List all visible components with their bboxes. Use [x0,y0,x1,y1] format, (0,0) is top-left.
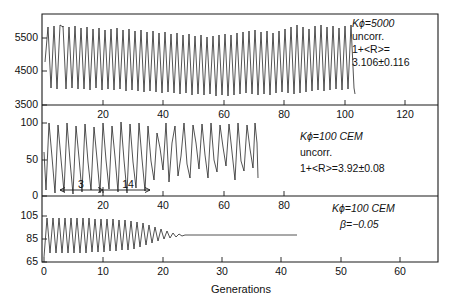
annot-mid-line-1: uncorr. [300,146,332,158]
panel-top-annotation: Kϕ=5000 uncorr. 1+<R>= 3.106±0.116 [352,17,410,68]
xtick-bot-2: 20 [157,265,169,277]
ytick-mid-1: 50 [26,153,38,165]
ytick-bot-2: 65 [26,255,38,267]
trace-bottom [44,218,297,257]
panel-middle-annotation: Kϕ=100 CEM uncorr. 1+<R>=3.92±0.08 [300,130,385,174]
panel-bottom: 20 40 60 80 105 85 65 [20,191,406,277]
panel-bottom-annotation: Kϕ=100 CEM β=−0.05 [332,202,395,230]
annot-top-line-0: Kϕ=5000 [352,17,394,29]
ytick-top-1: 4500 [15,64,39,76]
panel-bottom-xticks: 0 10 20 30 40 50 60 [41,257,406,277]
annot-bot-line-1: β=−0.05 [339,218,379,230]
ytick-top-2: 3500 [15,98,39,110]
span-label-14: 14 [122,178,134,190]
xtick-bot-6: 60 [394,265,406,277]
figure-container: 5500 4500 3500 Kϕ=5000 uncorr. 1+<R>= 3.… [0,0,451,303]
xtick-mid-1: 40 [157,199,169,211]
panel-bottom-yticks: 105 85 65 [20,209,47,267]
annot-top-line-3: 3.106±0.116 [352,56,410,68]
xtick-top-2: 60 [218,108,230,120]
panel-middle-xticks: 20 40 60 80 [97,191,290,211]
xtick-bot-0: 0 [41,265,47,277]
xtick-bot-3: 30 [216,265,228,277]
xtick-bot-4: 40 [275,265,287,277]
xtick-bot-5: 50 [335,265,347,277]
trace-middle [44,122,258,194]
panel-top-xticks: 20 40 60 80 100 120 [97,100,414,120]
ytick-mid-2: 0 [32,189,38,201]
annot-mid-line-2: 1+<R>=3.92±0.08 [300,162,385,174]
three-panel-oscillation-figure: 5500 4500 3500 Kϕ=5000 uncorr. 1+<R>= 3.… [0,0,451,303]
ytick-top-0: 5500 [15,31,39,43]
annot-top-line-1: uncorr. [352,30,384,42]
xtick-top-0: 20 [97,108,109,120]
span-arrow-14: 14 [103,178,150,193]
ytick-bot-1: 85 [26,232,38,244]
panel-middle-yticks: 100 50 0 [20,116,47,201]
annot-top-line-2: 1+<R>= [352,43,390,55]
xtick-top-3: 80 [278,108,290,120]
span-arrow-3: 3 [60,178,103,193]
xtick-mid-0: 20 [97,199,109,211]
xtick-mid-3: 80 [278,199,290,211]
xtick-top-1: 40 [157,108,169,120]
panel-middle: 20 40 60 80 100 120 100 50 0 [20,100,413,201]
xtick-top-4: 100 [336,108,354,120]
annot-mid-line-0: Kϕ=100 CEM [300,130,363,142]
xtick-mid-2: 60 [218,199,230,211]
panel-top: 5500 4500 3500 Kϕ=5000 uncorr. 1+<R>= 3.… [15,17,410,110]
ytick-bot-0: 105 [20,209,38,221]
annot-bot-line-0: Kϕ=100 CEM [332,202,395,214]
trace-top [45,25,355,96]
xtick-bot-1: 10 [97,265,109,277]
ytick-mid-0: 100 [20,116,38,128]
xaxis-title: Generations [211,283,271,295]
span-label-3: 3 [78,178,84,190]
xtick-top-5: 120 [396,108,414,120]
